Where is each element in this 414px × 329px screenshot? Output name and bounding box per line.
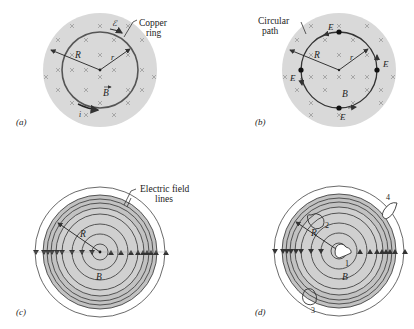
callout-lines: lines	[155, 194, 173, 204]
path-label-2: 2	[325, 221, 329, 230]
panel-label-d: (d)	[255, 307, 266, 317]
panel-label-c: (c)	[16, 307, 26, 317]
symbol-B: B	[103, 88, 109, 98]
symbol-E-bottom: E	[339, 112, 346, 122]
symbol-E-right: E	[382, 59, 389, 69]
symbol-B: B	[96, 272, 102, 282]
callout-copper: Copper	[139, 18, 168, 28]
callout-electric-field: Electric field	[140, 184, 190, 194]
path-label-3: 3	[311, 306, 315, 315]
point-left	[298, 67, 303, 72]
symbol-i: i	[79, 110, 81, 119]
point-top	[336, 29, 341, 34]
panel-a: Copper ring R r B ℰ i (a)	[16, 13, 168, 127]
symbol-B: B	[342, 272, 348, 282]
point-bottom	[336, 105, 341, 110]
point-right	[374, 67, 379, 72]
panel-label-b: (b)	[255, 117, 266, 127]
symbol-B: B	[342, 89, 348, 99]
symbol-R: R	[79, 229, 86, 239]
path-label-1: 1	[345, 259, 349, 268]
symbol-E-top: E	[327, 22, 334, 32]
symbol-E-left: E	[289, 73, 296, 83]
symbol-R: R	[310, 228, 317, 238]
callout-path: path	[262, 26, 279, 36]
path-label-4: 4	[386, 193, 390, 202]
callout-circular: Circular	[258, 16, 290, 26]
panel-label-a: (a)	[16, 117, 27, 127]
panel-c: Electric field lines R B (c)	[16, 184, 190, 317]
panel-d: 1 2 3 4 R B (d)	[255, 186, 408, 317]
symbol-R: R	[313, 50, 320, 60]
induced-electric-field-figure: Copper ring R r B ℰ i (a)	[0, 0, 414, 329]
callout-ring: ring	[146, 28, 162, 38]
panel-b: Circular path R r B E E E E (b)	[255, 13, 396, 127]
symbol-R: R	[74, 50, 81, 60]
